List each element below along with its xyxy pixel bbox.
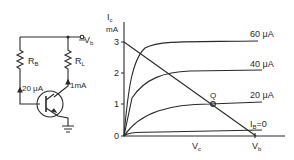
vb-label: Vb xyxy=(252,141,262,152)
collector-current-label: 1mA xyxy=(70,81,87,90)
tick-3: 3 xyxy=(114,37,119,47)
curve-60ua xyxy=(124,41,258,136)
label-40ua: 40 μA xyxy=(250,59,274,69)
y-axis-label: Ic xyxy=(107,12,113,23)
transistor-body xyxy=(37,91,63,117)
collector-lead xyxy=(46,94,54,100)
load-line xyxy=(124,42,256,136)
resistor-rb xyxy=(17,37,40,104)
ground-icon xyxy=(62,126,74,132)
label-20ua: 20 μA xyxy=(250,90,274,100)
label-ib0: IB=0 xyxy=(250,119,267,130)
transistor-diagram: Vb RB RL 20 μA 1mA Ic mA 3 2 1 0 60 μA 4… xyxy=(0,0,294,160)
tick-1: 1 xyxy=(114,99,119,109)
vc-label: Vc xyxy=(192,141,201,152)
curve-ib0 xyxy=(124,130,262,136)
supply-label: Vb xyxy=(84,35,94,46)
tick-2: 2 xyxy=(114,68,119,78)
junction-dot xyxy=(67,36,69,38)
base-current-label: 20 μA xyxy=(22,84,44,93)
rb-label: RB xyxy=(28,56,39,67)
rl-label: RL xyxy=(75,56,86,67)
resistor-rl xyxy=(54,37,71,97)
q-label: Q xyxy=(210,91,216,100)
y-unit: mA xyxy=(106,25,119,34)
label-60ua: 60 μA xyxy=(250,29,274,39)
tick-0: 0 xyxy=(114,131,119,141)
emitter-arrow-icon xyxy=(52,109,56,112)
